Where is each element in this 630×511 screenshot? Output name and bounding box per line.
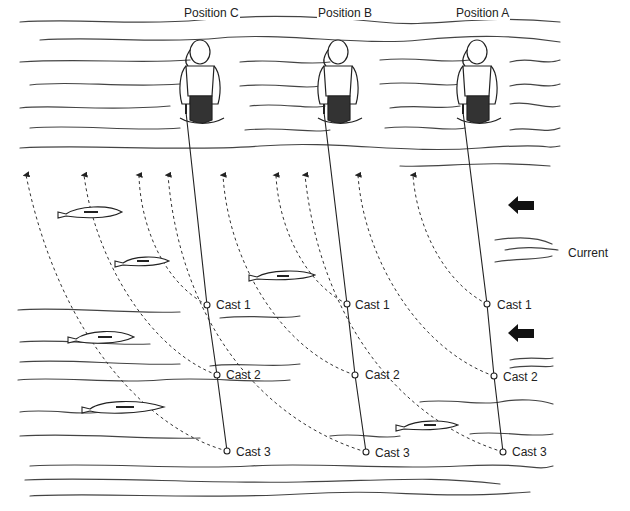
fishing-diagram: Position C Position B Position A Cast 1 …: [0, 0, 630, 511]
cast-label-c2: Cast 2: [226, 368, 261, 382]
diagram-canvas: [0, 0, 630, 511]
angler-position-c: [180, 40, 224, 123]
cast-label-b3: Cast 3: [375, 446, 410, 460]
current-arrow-icon: [508, 196, 534, 214]
fish-icon: [115, 257, 169, 267]
fish-icon: [58, 207, 122, 218]
fish-icon: [82, 402, 164, 414]
cast-label-a2: Cast 2: [503, 370, 538, 384]
fish-icon: [68, 332, 134, 344]
current-arrows: [508, 196, 534, 342]
cast-label-b1: Cast 1: [355, 298, 390, 312]
cast-label-c3: Cast 3: [236, 445, 271, 459]
angler-position-b: [318, 40, 362, 123]
position-a-label: Position A: [455, 6, 510, 20]
cast-label-b2: Cast 2: [365, 368, 400, 382]
fish-icon: [396, 421, 458, 431]
fish-icon: [249, 271, 315, 281]
position-c-label: Position C: [183, 6, 240, 20]
current-arrow-icon: [508, 324, 534, 342]
cast-label-a1: Cast 1: [497, 298, 532, 312]
current-label: Current: [568, 246, 608, 260]
position-b-label: Position B: [317, 6, 373, 20]
fish-group: [58, 207, 458, 431]
cast-label-c1: Cast 1: [216, 298, 251, 312]
angler-position-a: [457, 40, 501, 123]
cast-label-a3: Cast 3: [512, 445, 547, 459]
